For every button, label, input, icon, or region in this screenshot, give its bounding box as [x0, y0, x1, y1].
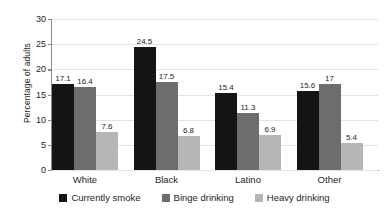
legend-item: Binge drinking — [162, 192, 234, 203]
bar-value-label: 7.6 — [101, 123, 112, 131]
bar: 6.8 — [178, 136, 200, 170]
bar-group: 15.411.36.9 — [215, 19, 297, 170]
bar: 7.6 — [96, 132, 118, 170]
x-axis-label-other: Other — [297, 174, 363, 185]
bar-value-label: 6.8 — [183, 127, 194, 135]
bar: 15.6 — [297, 91, 319, 170]
bar: 5.4 — [341, 143, 363, 170]
bar: 16.4 — [74, 87, 96, 170]
bar-group: 17.116.47.6 — [52, 19, 134, 170]
legend-label: Binge drinking — [174, 192, 234, 203]
legend-swatch-icon — [162, 194, 170, 202]
legend-label: Heavy drinking — [267, 192, 330, 203]
bar-group: 24.517.56.8 — [134, 19, 216, 170]
bar: 17 — [319, 84, 341, 170]
legend-swatch-icon — [59, 194, 67, 202]
legend-item: Heavy drinking — [255, 192, 330, 203]
y-tick-label: 25 — [36, 39, 46, 49]
x-axis-label-white: White — [52, 174, 118, 185]
bar-value-label: 15.4 — [218, 84, 234, 92]
y-tick-mark — [48, 170, 52, 171]
y-tick-label: 30 — [36, 14, 46, 24]
bar: 11.3 — [237, 113, 259, 170]
bar-chart: Percentage of adults 051015202530 17.116… — [0, 0, 389, 216]
bar-value-label: 17 — [325, 75, 334, 83]
bar-value-label: 16.4 — [77, 78, 93, 86]
bar-value-label: 15.6 — [300, 82, 316, 90]
bar: 17.1 — [52, 84, 74, 170]
legend-label: Currently smoke — [71, 192, 140, 203]
x-axis-label-latino: Latino — [215, 174, 281, 185]
chart-legend: Currently smokeBinge drinkingHeavy drink… — [0, 192, 389, 203]
bar-value-label: 17.5 — [159, 73, 175, 81]
bar: 24.5 — [134, 47, 156, 170]
bar-value-label: 5.4 — [346, 134, 357, 142]
y-axis-title: Percentage of adults — [22, 8, 32, 158]
bar: 15.4 — [215, 93, 237, 171]
gridline — [52, 170, 378, 171]
bar-value-label: 24.5 — [137, 38, 153, 46]
plot-area: 051015202530 17.116.47.624.517.56.815.41… — [52, 19, 378, 170]
bar-value-label: 6.9 — [264, 126, 275, 134]
y-tick-label: 20 — [36, 64, 46, 74]
x-axis-label-black: Black — [134, 174, 200, 185]
legend-item: Currently smoke — [59, 192, 140, 203]
y-tick-label: 0 — [41, 165, 46, 175]
bar: 17.5 — [156, 82, 178, 170]
y-tick-label: 15 — [36, 90, 46, 100]
bar: 6.9 — [259, 135, 281, 170]
legend-swatch-icon — [255, 194, 263, 202]
y-tick-label: 5 — [41, 140, 46, 150]
y-tick-label: 10 — [36, 115, 46, 125]
bar-group: 15.6175.4 — [297, 19, 379, 170]
bar-value-label: 17.1 — [55, 75, 71, 83]
bar-value-label: 11.3 — [241, 104, 256, 112]
